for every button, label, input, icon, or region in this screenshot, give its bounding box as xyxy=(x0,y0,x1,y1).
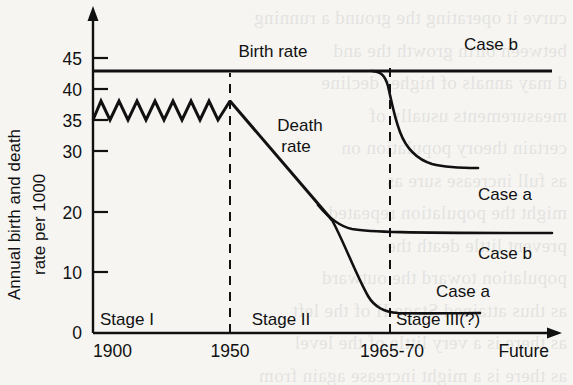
demographic-transition-figure: 45 40 35 30 20 10 0 Annual birth and dea… xyxy=(0,0,573,385)
stage-label-1: Stage I xyxy=(100,310,154,329)
y-tick-labels: 45 40 35 30 20 10 0 xyxy=(63,49,83,343)
y-axis-title: Annual birth and death rate per 1000 xyxy=(5,129,49,300)
series-annotations: Birth rate Death rate Case b Case a Case… xyxy=(239,35,533,301)
series-death-rate-stage1-zigzag xyxy=(93,101,230,120)
y-axis-title-line1: Annual birth and death xyxy=(5,129,24,300)
y-tick-label-10: 10 xyxy=(63,263,83,283)
y-tick-label-30: 30 xyxy=(63,142,83,162)
series-death-rate-case-b xyxy=(318,205,552,233)
series-birth-rate-case-a xyxy=(372,71,478,168)
annotation-birth-case-b: Case b xyxy=(464,35,518,54)
y-tick-label-20: 20 xyxy=(63,203,83,223)
x-axis xyxy=(93,328,562,339)
x-tick-label-1950: 1950 xyxy=(211,341,250,361)
y-axis-arrowhead xyxy=(88,6,99,21)
y-axis xyxy=(88,6,99,333)
x-axis-end-label-future: Future xyxy=(498,341,549,361)
y-tick-label-40: 40 xyxy=(63,80,83,100)
annotation-death-rate-line2: rate xyxy=(281,137,310,156)
stage-label-2: Stage II xyxy=(252,310,311,329)
y-tick-label-0: 0 xyxy=(72,323,82,343)
annotation-death-case-b: Case b xyxy=(478,244,532,263)
annotation-death-rate-line1: Death xyxy=(277,116,322,135)
x-axis-arrowhead xyxy=(547,328,562,339)
y-tick-label-35: 35 xyxy=(63,111,82,131)
x-tick-label-1965-70: 1965-70 xyxy=(360,341,424,361)
y-tick-label-45: 45 xyxy=(63,49,82,69)
y-tick-marks xyxy=(93,58,108,272)
annotation-birth-case-a: Case a xyxy=(478,185,532,204)
x-tick-labels: 1900 1950 1965-70 Future xyxy=(93,341,549,361)
y-axis-title-line2: rate per 1000 xyxy=(30,174,49,275)
x-tick-label-1900: 1900 xyxy=(93,341,132,361)
annotation-birth-rate: Birth rate xyxy=(239,42,308,61)
annotation-death-case-a: Case a xyxy=(436,282,490,301)
